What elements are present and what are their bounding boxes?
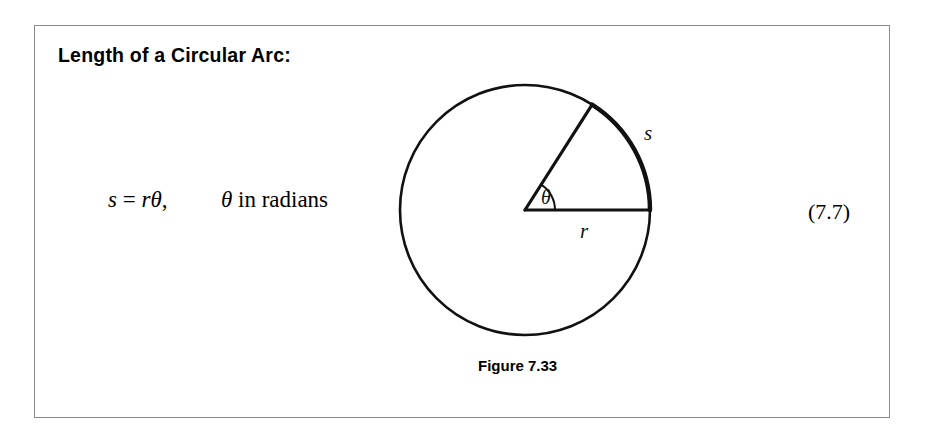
equation-number: (7.7)	[808, 199, 850, 225]
page-title: Length of a Circular Arc:	[58, 44, 291, 67]
figure-page: Length of a Circular Arc: s = rθ, θ in r…	[0, 0, 925, 425]
condition-theta-symbol: θ	[221, 187, 232, 212]
formula-comma: ,	[162, 187, 168, 212]
radius-line-angled	[525, 105, 592, 210]
circular-arc-diagram: θ r s	[380, 78, 680, 340]
formula-equals-sign: =	[123, 187, 136, 212]
arc-label-s: s	[644, 121, 652, 145]
condition-text: in radians	[238, 187, 328, 212]
angle-label-theta: θ	[541, 186, 551, 208]
formula-variable-s: s	[108, 187, 117, 212]
arc-segment-s	[592, 105, 650, 210]
figure-caption: Figure 7.33	[478, 357, 557, 374]
radius-label-r: r	[580, 219, 589, 243]
arc-length-formula: s = rθ, θ in radians	[108, 187, 328, 213]
formula-theta-symbol: θ	[150, 187, 161, 212]
